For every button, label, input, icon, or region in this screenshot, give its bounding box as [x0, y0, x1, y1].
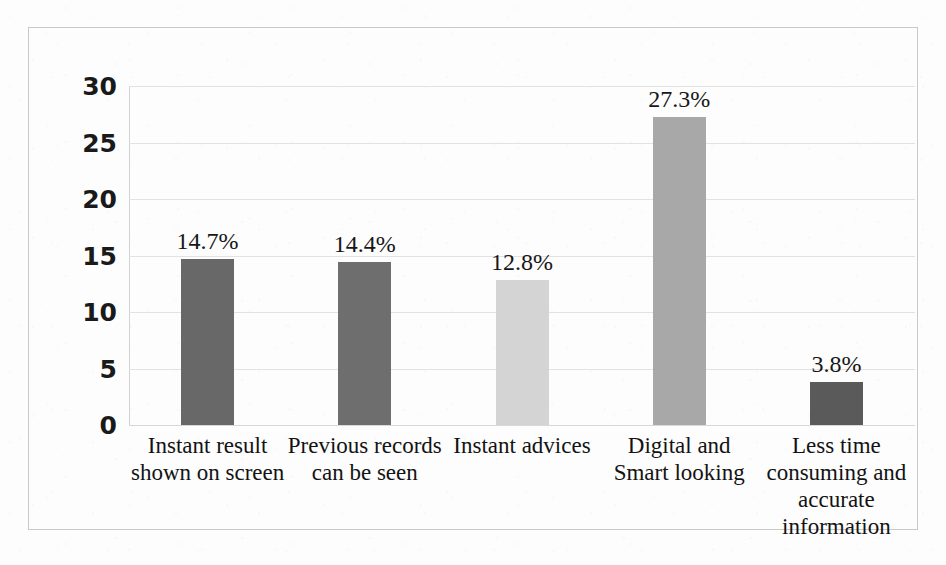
bar-2 — [338, 262, 391, 425]
y-axis-tick-labels: 302520151050 — [55, 86, 117, 425]
y-axis-tick-30: 30 — [55, 74, 117, 99]
bar-value-label-1: 14.7% — [138, 229, 278, 253]
category-label-line: Smart looking — [597, 459, 762, 486]
category-label-line: Instant result — [125, 432, 290, 459]
category-label-line: Previous records — [282, 432, 447, 459]
category-label-5: Less timeconsuming andaccurateinformatio… — [754, 432, 919, 541]
category-label-line: Instant advices — [439, 432, 604, 459]
chart-frame: 302520151050 14.7%14.4%12.8%27.3%3.8% In… — [28, 27, 918, 530]
bar-5 — [810, 382, 863, 425]
y-axis-tick-10: 10 — [55, 300, 117, 325]
plot-area: 14.7%14.4%12.8%27.3%3.8% — [129, 86, 915, 425]
category-label-1: Instant resultshown on screen — [125, 432, 290, 486]
gridline — [129, 86, 915, 87]
bar-value-label-5: 3.8% — [766, 352, 906, 376]
category-label-line: consuming and — [754, 459, 919, 486]
bar-value-label-2: 14.4% — [295, 232, 435, 256]
axis-baseline — [129, 425, 915, 426]
category-label-line: can be seen — [282, 459, 447, 486]
gridline — [129, 199, 915, 200]
y-axis-tick-5: 5 — [55, 356, 117, 381]
y-axis-tick-25: 25 — [55, 130, 117, 155]
category-label-line: Digital and — [597, 432, 762, 459]
category-label-4: Digital andSmart looking — [597, 432, 762, 486]
bar-value-label-4: 27.3% — [609, 87, 749, 111]
gridline — [129, 143, 915, 144]
y-axis-tick-20: 20 — [55, 187, 117, 212]
category-label-line: information — [754, 513, 919, 540]
bar-value-label-3: 12.8% — [452, 250, 592, 274]
bar-1 — [181, 259, 234, 425]
chart-page: 302520151050 14.7%14.4%12.8%27.3%3.8% In… — [0, 0, 946, 565]
bar-4 — [653, 117, 706, 425]
x-axis-category-labels: Instant resultshown on screenPrevious re… — [129, 432, 915, 552]
category-label-line: shown on screen — [125, 459, 290, 486]
y-axis-tick-15: 15 — [55, 243, 117, 268]
category-label-2: Previous recordscan be seen — [282, 432, 447, 486]
category-label-line: accurate — [754, 486, 919, 513]
bar-3 — [496, 280, 549, 425]
y-axis-tick-0: 0 — [55, 413, 117, 438]
category-label-line: Less time — [754, 432, 919, 459]
category-label-3: Instant advices — [439, 432, 604, 459]
